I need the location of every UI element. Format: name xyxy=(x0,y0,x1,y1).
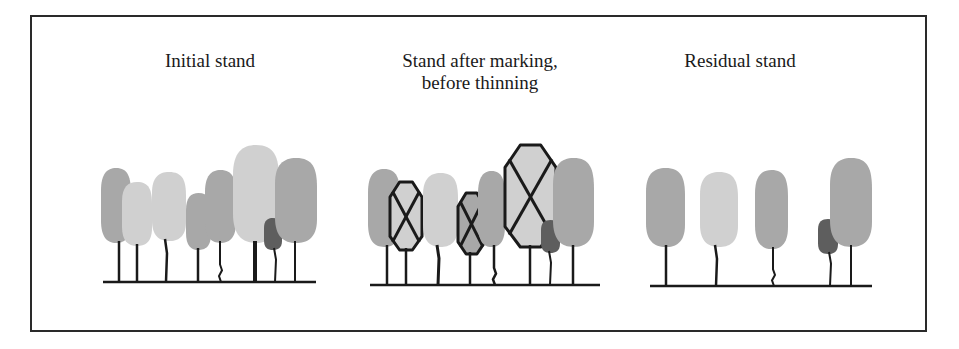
tree-crown xyxy=(152,172,186,241)
tree-trunk xyxy=(493,245,496,285)
tree-crown xyxy=(755,170,788,249)
stand-illustration xyxy=(0,0,959,349)
tree-trunk xyxy=(715,245,717,286)
tree-crown xyxy=(423,173,458,247)
tree-crown xyxy=(122,182,152,246)
tree-crown xyxy=(478,171,505,247)
tree-trunk xyxy=(772,247,775,286)
tree-crown xyxy=(275,158,317,243)
tree xyxy=(755,170,788,249)
tree-crown xyxy=(205,170,236,243)
tree xyxy=(152,172,186,241)
tree xyxy=(830,158,872,247)
tree-trunk xyxy=(219,241,222,282)
tree-crown xyxy=(700,172,738,247)
tree xyxy=(122,182,152,246)
crowns xyxy=(101,145,317,250)
tree xyxy=(646,168,685,247)
tree-marked-for-removal xyxy=(390,182,422,250)
panel-marked-stand xyxy=(368,145,600,285)
tree-trunk xyxy=(829,252,831,286)
crowns xyxy=(368,145,594,254)
tree-trunk xyxy=(274,248,276,282)
tree-trunk xyxy=(165,239,167,282)
panel-residual-stand xyxy=(646,158,872,286)
tree xyxy=(700,172,738,247)
tree xyxy=(275,158,317,243)
tree xyxy=(478,171,505,247)
tree-crown xyxy=(830,158,872,247)
tree xyxy=(205,170,236,243)
tree-crown xyxy=(646,168,685,247)
panel-initial-stand xyxy=(101,145,317,282)
crowns xyxy=(646,158,872,254)
tree-crown xyxy=(553,158,594,247)
tree xyxy=(423,173,458,247)
tree xyxy=(553,158,594,247)
tree-trunk xyxy=(549,251,551,285)
tree-trunk xyxy=(437,245,439,285)
